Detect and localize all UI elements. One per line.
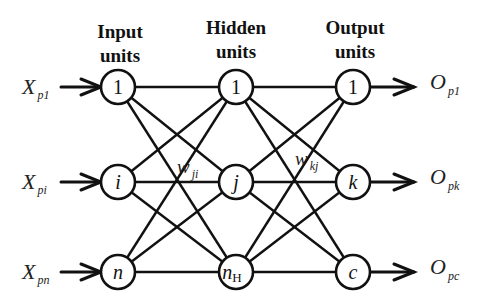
hidden-node-label: 1 (231, 76, 241, 98)
output-label-0: Op1 (430, 69, 460, 98)
input-label-2: Xpn (21, 259, 49, 287)
output-arrow-1 (370, 174, 414, 190)
hidden-node-1: j (219, 165, 253, 199)
neural-network-diagram: Input units Hidden units Output units 1i… (0, 0, 484, 303)
input-node-0: 1 (101, 70, 135, 104)
weight-label-ji: wji (177, 156, 198, 181)
nodes: 1in1jnH1kc (101, 70, 370, 289)
input-units-header-line1: Input (97, 21, 143, 42)
output-node-2: c (336, 255, 370, 289)
hidden-units-header-line2: units (216, 41, 256, 62)
input-node-2: n (101, 255, 135, 289)
output-node-1: k (336, 165, 370, 199)
hidden-node-2: nH (219, 255, 253, 289)
input-node-label: n (113, 261, 123, 283)
output-node-label: c (349, 261, 358, 283)
output-label-2: Opc (430, 254, 460, 283)
output-node-label: 1 (348, 76, 358, 98)
input-arrow-2 (61, 264, 101, 280)
output-arrow-0 (370, 79, 414, 95)
input-units-header-line2: units (100, 45, 140, 66)
output-label-1: Opk (430, 164, 460, 193)
input-node-label: 1 (113, 76, 123, 98)
input-node-label: i (115, 171, 121, 193)
output-node-0: 1 (336, 70, 370, 104)
hidden-node-0: 1 (219, 70, 253, 104)
output-units-header-line1: Output (325, 17, 385, 38)
output-arrow-2 (370, 264, 414, 280)
input-arrow-1 (61, 174, 101, 190)
output-units-header-line2: units (335, 41, 375, 62)
input-arrow-0 (61, 79, 101, 95)
output-node-label: k (349, 171, 359, 193)
hidden-units-header-line1: Hidden (206, 17, 267, 38)
input-label-0: Xp1 (21, 74, 49, 102)
input-node-1: i (101, 165, 135, 199)
input-label-1: Xpi (21, 169, 47, 197)
